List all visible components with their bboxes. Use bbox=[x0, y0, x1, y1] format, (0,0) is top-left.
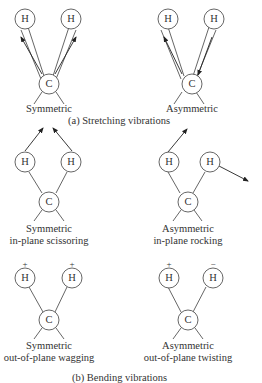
carbon-label: C bbox=[43, 196, 55, 208]
carbon-label: C bbox=[43, 78, 55, 90]
hydrogen-label: H bbox=[208, 13, 220, 25]
mode-label-scissoring-1: Symmetric bbox=[0, 223, 98, 235]
hydrogen-label: H bbox=[163, 272, 175, 284]
hydrogen-label: H bbox=[163, 156, 175, 168]
plus-sign: + bbox=[19, 258, 31, 270]
carbon-label: C bbox=[182, 196, 194, 208]
minus-sign: − bbox=[207, 258, 219, 270]
mode-label-rocking-2: in-plane rocking bbox=[139, 235, 237, 247]
mode-label-rocking-1: Asymmetric bbox=[139, 223, 237, 235]
mode-label-wagging-2: out-of-plane wagging bbox=[0, 352, 98, 364]
plus-sign: + bbox=[163, 258, 175, 270]
carbon-label: C bbox=[182, 314, 194, 326]
hydrogen-label: H bbox=[19, 156, 31, 168]
mode-label-wagging-1: Symmetric bbox=[0, 340, 98, 352]
hydrogen-label: H bbox=[207, 272, 219, 284]
section-caption-bending: (b) Bending vibrations bbox=[72, 372, 167, 383]
mode-label-twisting-1: Asymmetric bbox=[139, 340, 237, 352]
mode-label-asymmetric-stretch: Asymmetric bbox=[143, 103, 241, 115]
mode-label-symmetric-stretch: Symmetric bbox=[0, 103, 98, 115]
hydrogen-label: H bbox=[19, 272, 31, 284]
mode-label-scissoring-2: in-plane scissoring bbox=[0, 235, 98, 247]
hydrogen-label: H bbox=[65, 156, 77, 168]
section-caption-stretching: (a) Stretching vibrations bbox=[68, 115, 170, 126]
carbon-label: C bbox=[43, 314, 55, 326]
carbon-label: C bbox=[186, 78, 198, 90]
hydrogen-label: H bbox=[204, 156, 216, 168]
hydrogen-label: H bbox=[66, 272, 78, 284]
mode-label-twisting-2: out-of-plane twisting bbox=[139, 352, 237, 364]
rocking bbox=[159, 129, 248, 221]
hydrogen-label: H bbox=[65, 13, 77, 25]
hydrogen-label: H bbox=[162, 13, 174, 25]
plus-sign: + bbox=[66, 258, 78, 270]
hydrogen-label: H bbox=[19, 13, 31, 25]
